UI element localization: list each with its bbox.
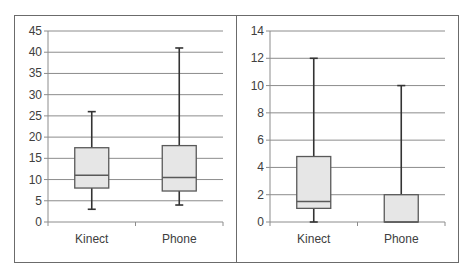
box-plot-figure: 051015202530354045KinectPhone02468101214… <box>0 0 470 268</box>
x-category-label: Kinect <box>297 232 331 246</box>
y-tick-label: 0 <box>257 215 264 229</box>
box-iqr <box>162 146 196 191</box>
box-kinect <box>75 112 109 210</box>
x-category-label: Phone <box>384 232 419 246</box>
chart-panel-1: 051015202530354045KinectPhone <box>29 24 223 246</box>
y-tick-label: 15 <box>29 151 43 165</box>
y-tick-label: 0 <box>35 215 42 229</box>
y-tick-label: 35 <box>29 66 43 80</box>
y-tick-label: 5 <box>35 194 42 208</box>
y-tick-label: 6 <box>257 133 264 147</box>
box-iqr <box>75 148 109 188</box>
chart-panel-2: 02468101214KinectPhone <box>251 24 445 246</box>
y-tick-label: 45 <box>29 24 43 38</box>
y-tick-label: 4 <box>257 160 264 174</box>
y-tick-label: 10 <box>29 173 43 187</box>
box-phone <box>162 48 196 205</box>
box-phone <box>384 86 418 222</box>
box-iqr <box>297 157 331 209</box>
y-tick-label: 40 <box>29 45 43 59</box>
y-tick-label: 12 <box>251 51 265 65</box>
y-tick-label: 8 <box>257 106 264 120</box>
y-tick-label: 25 <box>29 109 43 123</box>
y-tick-label: 30 <box>29 88 43 102</box>
y-tick-label: 10 <box>251 79 265 93</box>
x-category-label: Kinect <box>75 232 109 246</box>
y-tick-label: 2 <box>257 188 264 202</box>
y-tick-label: 20 <box>29 130 43 144</box>
box-iqr <box>384 195 418 222</box>
y-tick-label: 14 <box>251 24 265 38</box>
x-category-label: Phone <box>162 232 197 246</box>
